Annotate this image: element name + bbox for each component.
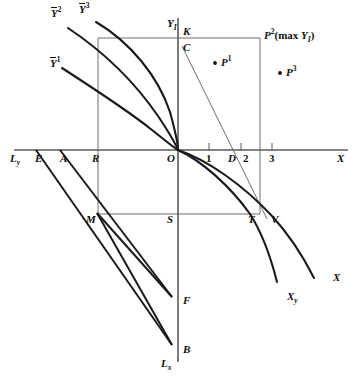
- plotted-point-label-p3: P3: [286, 67, 296, 78]
- xy-sub: y: [294, 296, 297, 305]
- p3-base: P: [286, 66, 293, 78]
- curve-xy: [178, 150, 277, 282]
- point-marker-p3: [278, 71, 282, 75]
- point-label-v: V: [271, 214, 278, 225]
- ybar3-base: Y: [79, 4, 86, 15]
- p2-caption-close: ): [311, 29, 315, 41]
- curve-label-x: X: [333, 272, 340, 283]
- plotted-point-label-p2: P2(max YI): [264, 30, 314, 41]
- y-axis-bottom-base: L: [161, 357, 168, 369]
- line-m-to-b: [97, 213, 172, 345]
- ybar1-sup: 1: [57, 55, 61, 64]
- ybar2-base: Y: [51, 8, 58, 19]
- origin-label: O: [167, 153, 175, 164]
- point-label-a: A: [60, 153, 67, 164]
- y-axis-top-sub: I: [174, 23, 177, 32]
- x-axis-left-sub: y: [17, 158, 20, 167]
- p3-sup: 3: [293, 64, 297, 73]
- x-axis-right-label: X: [337, 153, 344, 164]
- y-axis-top-base: Y: [167, 17, 174, 29]
- p1-base: P: [221, 56, 228, 68]
- curve-ybar1: [62, 68, 178, 150]
- ray-c-to-v: [182, 46, 267, 219]
- y-axis-bottom-sub: x: [168, 363, 172, 372]
- curve-label-ybar1: Y1: [50, 58, 60, 69]
- curve-label-xy: Xy: [287, 291, 298, 302]
- x-tick-label-2: 2: [243, 153, 249, 164]
- point-label-m: M: [86, 214, 96, 225]
- curve-ybar3: [96, 22, 178, 150]
- point-marker-p1: [213, 61, 217, 65]
- p1-sup: 1: [228, 54, 232, 63]
- line-e-to-b: [36, 150, 172, 345]
- ybar2-sup: 2: [58, 5, 62, 14]
- point-label-b: B: [183, 344, 190, 355]
- ybar1-base: Y: [50, 58, 57, 69]
- y-axis-top-label: YI: [167, 18, 177, 29]
- x-axis-left-label: Ly: [10, 153, 20, 164]
- ybar3-sup: 3: [86, 1, 90, 10]
- point-label-f: F: [183, 295, 190, 306]
- point-label-e: E: [35, 153, 42, 164]
- y-axis-bottom-label: Lx: [161, 358, 171, 369]
- point-label-c: C: [183, 42, 190, 53]
- p2-caption-var: Y: [301, 29, 308, 41]
- construction-box: [98, 38, 260, 214]
- point-label-s: S: [167, 214, 173, 225]
- x-tick-label-1: 1: [206, 153, 212, 164]
- point-label-r: R: [92, 153, 99, 164]
- p2-base: P: [264, 29, 271, 41]
- line-a-to-f: [60, 150, 172, 297]
- curve-label-ybar2: Y2: [51, 8, 61, 19]
- point-label-d: D: [228, 153, 236, 164]
- point-label-t: T: [248, 214, 255, 225]
- curve-ybar2: [68, 28, 178, 150]
- curve-label-ybar3: Y3: [79, 4, 89, 15]
- p2-caption-open: (max: [274, 29, 301, 41]
- x-axis-left-base: L: [10, 152, 17, 164]
- x-axis-ticks: [209, 143, 272, 150]
- plotted-point-label-p1: P1: [221, 57, 231, 68]
- x-tick-label-3: 3: [269, 153, 275, 164]
- point-label-k: K: [183, 26, 190, 37]
- diagram-canvas: Y2 Y3 Y1 YI K C P2(max YI) P1 P3 Ly E A …: [0, 0, 359, 385]
